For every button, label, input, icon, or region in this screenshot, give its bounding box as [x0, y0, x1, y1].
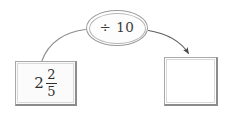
- fraction-denominator: 5: [46, 84, 56, 98]
- fraction-2-over-5: 2 5: [46, 68, 57, 98]
- function-machine-diagram: ÷ 10 2 2 5: [0, 0, 227, 118]
- input-value-content: 2 2 5: [16, 62, 75, 104]
- mixed-number-whole-part: 2: [34, 76, 44, 91]
- fraction-numerator: 2: [46, 68, 56, 82]
- input-value-box: 2 2 5: [15, 61, 77, 106]
- operation-oval: ÷ 10: [86, 10, 148, 46]
- output-answer-box[interactable]: [164, 57, 218, 106]
- output-value-content[interactable]: [165, 58, 216, 104]
- connector-input-to-operation: [42, 30, 86, 63]
- answer-input-slot[interactable]: [165, 58, 216, 104]
- connector-operation-to-output: [149, 31, 189, 54]
- operation-label: ÷ 10: [86, 10, 148, 46]
- mixed-number-2-and-2-5: 2 2 5: [34, 68, 57, 98]
